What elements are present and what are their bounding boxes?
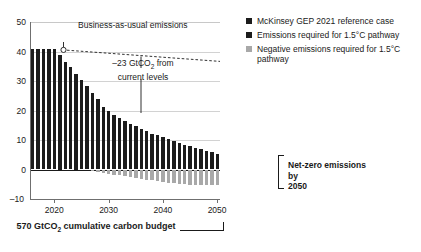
y-tick-20: 20	[2, 107, 26, 116]
bar-negative	[107, 170, 110, 174]
bar-negative	[172, 170, 175, 184]
annotation-business-as-usual: Business-as-usual emissions	[78, 20, 188, 31]
bar-positive	[134, 126, 137, 169]
bar-negative	[167, 170, 170, 183]
bar-negative	[205, 170, 208, 186]
bar-negative	[178, 170, 181, 184]
bar-positive	[91, 93, 94, 169]
bar-positive	[64, 62, 67, 170]
x-tick-label-2030: 2030	[99, 206, 118, 215]
bar-positive	[140, 129, 143, 169]
bar-positive	[53, 49, 56, 169]
y-tick-0: 0	[2, 166, 26, 175]
bar-positive	[96, 99, 99, 170]
annotation-carbon-budget: 570 GtCO2 cumulative carbon budget	[0, 222, 192, 233]
bar-positive	[47, 49, 50, 169]
bar-negative	[140, 170, 143, 179]
bar-negative	[156, 170, 159, 182]
y-tick-minus10: –10	[0, 195, 24, 204]
bar-positive	[161, 137, 164, 169]
bar-positive	[118, 118, 121, 169]
legend-label-emissions-required: Emissions required for 1.5°C pathway	[257, 30, 399, 40]
bar-positive	[69, 67, 72, 170]
bar-positive	[150, 134, 153, 170]
legend-swatch-reference-case	[246, 18, 252, 24]
bar-negative	[194, 170, 197, 185]
budget-label-inner: 570 GtCO2 cumulative carbon budget	[12, 221, 179, 231]
bar-positive	[36, 49, 39, 169]
y-tick-10: 10	[2, 136, 26, 145]
bar-negative	[134, 170, 137, 179]
bar-negative	[150, 170, 153, 181]
budget-suffix-text: cumulative carbon budget	[61, 221, 176, 231]
x-tick-2030	[109, 199, 110, 203]
bar-negative	[118, 170, 121, 176]
x-tick-label-2040: 2040	[153, 206, 172, 215]
x-tick-2050	[217, 199, 218, 203]
bar-positive	[74, 74, 77, 170]
bar-positive	[145, 131, 148, 169]
budget-prefix-text: 570 GtCO	[16, 221, 57, 231]
bar-positive	[42, 49, 45, 169]
y-tick-30: 30	[2, 77, 26, 86]
bar-negative	[183, 170, 186, 185]
bar-positive	[194, 148, 197, 170]
drop-line1-text: –23 GtCO	[112, 58, 150, 68]
bar-negative	[188, 170, 191, 185]
legend: McKinsey GEP 2021 reference case Emissio…	[246, 16, 418, 68]
bar-positive	[129, 124, 132, 169]
bar-positive	[216, 154, 219, 170]
bar-positive	[188, 146, 191, 169]
annotation-net-zero: Net-zero emissions by 2050	[288, 160, 378, 192]
bar-negative	[91, 170, 94, 172]
netzero-line1-text: Net-zero emissions by	[288, 160, 366, 181]
x-axis-line	[30, 199, 220, 200]
bar-positive	[167, 139, 170, 169]
annotation-drop-from-current: –23 GtCO2 from current levels	[104, 58, 182, 83]
bar-positive	[80, 80, 83, 170]
legend-item-emissions-required[interactable]: Emissions required for 1.5°C pathway	[246, 30, 418, 40]
legend-swatch-emissions-required	[246, 32, 252, 38]
bar-negative	[129, 170, 132, 178]
bar-negative	[145, 170, 148, 180]
bar-positive	[112, 115, 115, 169]
bar-positive	[156, 135, 159, 169]
bar-negative	[112, 170, 115, 175]
bar-negative	[102, 170, 105, 174]
drop-line1-tail: from	[154, 58, 173, 68]
bar-negative	[199, 170, 202, 186]
bar-negative	[210, 170, 213, 186]
legend-swatch-negative-emissions	[246, 46, 252, 52]
legend-label-reference-case: McKinsey GEP 2021 reference case	[257, 16, 394, 26]
bar-positive	[178, 143, 181, 170]
net-zero-bracket	[278, 155, 284, 189]
bar-negative	[96, 170, 99, 173]
bar-positive	[58, 55, 61, 170]
bar-positive	[172, 141, 175, 170]
x-tick-label-2020: 2020	[45, 206, 64, 215]
y-tick-50: 50	[2, 18, 26, 27]
bar-positive	[31, 49, 34, 169]
bar-positive	[199, 149, 202, 169]
bar-positive	[183, 145, 186, 170]
x-tick-2040	[163, 199, 164, 203]
bar-negative	[123, 170, 126, 177]
bar-negative	[161, 170, 164, 183]
bar-positive	[210, 152, 213, 169]
bar-positive	[85, 86, 88, 169]
bar-positive	[107, 111, 110, 170]
bar-series-group	[30, 22, 220, 199]
bar-positive	[205, 151, 208, 170]
legend-item-negative-emissions[interactable]: Negative emissions required for 1.5°C pa…	[246, 44, 418, 64]
y-tick-40: 40	[2, 48, 26, 57]
netzero-line2-text: 2050	[288, 181, 307, 191]
x-tick-2020	[54, 199, 55, 203]
legend-item-reference-case[interactable]: McKinsey GEP 2021 reference case	[246, 16, 418, 26]
bar-positive	[123, 121, 126, 169]
chart-root: 50 40 30 20 10 0 –10 2020 2030 2040 2050…	[0, 0, 421, 252]
drop-line2-text: current levels	[118, 72, 169, 82]
x-tick-label-2050: 2050	[208, 206, 227, 215]
bar-negative	[216, 170, 219, 186]
bar-positive	[102, 107, 105, 170]
legend-label-negative-emissions: Negative emissions required for 1.5°C pa…	[257, 44, 418, 64]
